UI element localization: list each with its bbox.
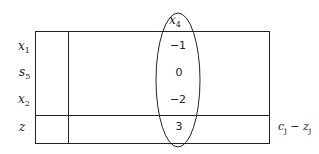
- cell-x1-x4: −1: [158, 39, 198, 52]
- cell-z-x4: 3: [159, 120, 199, 133]
- cj-minus-zj-label: cj − zj: [278, 120, 311, 135]
- cell-s5-x4: 0: [159, 66, 199, 79]
- cell-x2-x4: −2: [158, 93, 198, 106]
- z-row-label: z: [19, 120, 25, 134]
- basis-var-s5: s5: [19, 65, 30, 81]
- basis-var-x2: x2: [18, 92, 30, 108]
- column-header-x4: x4: [169, 13, 181, 29]
- basis-var-x1: x1: [18, 39, 30, 55]
